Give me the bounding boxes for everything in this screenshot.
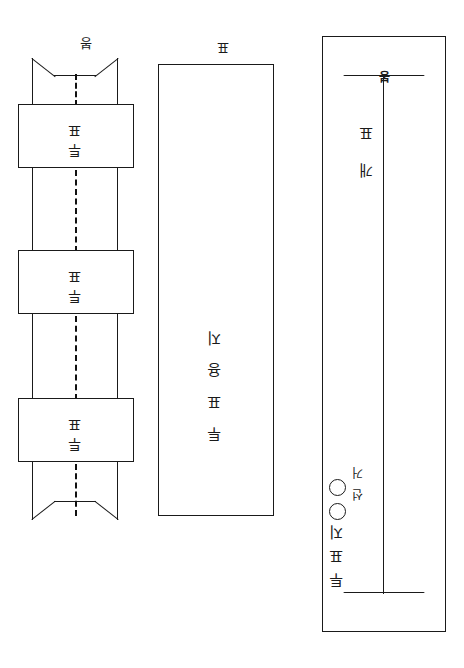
strip-dash-segment — [75, 74, 77, 106]
envelope-seal-mark: 봉 — [377, 69, 391, 83]
strip-band: 투표 — [18, 104, 134, 168]
ballot-diagram: 투표용지 표 — [158, 64, 274, 516]
scanned-page: 봉 투표지 선거 개표 투표용지 표 — [0, 0, 464, 668]
envelope-bottom-label: 개표 — [360, 104, 375, 178]
strip-dash-segment — [75, 170, 77, 252]
strip-band: 투표 — [18, 250, 134, 314]
envelope-fold-line — [383, 74, 384, 594]
envelope-diagram: 봉 투표지 선거 개표 — [322, 36, 446, 632]
ballot-outline — [158, 64, 274, 516]
circle-icon — [329, 479, 346, 496]
sealed-strip-diagram: 투표 투표 투표 봉 — [16, 56, 134, 520]
strip-caption: 봉 — [80, 37, 92, 50]
circle-icon — [329, 503, 346, 520]
strip-band: 투표 — [18, 398, 134, 462]
envelope-main-label: 투표지 — [330, 516, 345, 588]
strip-dash-segment — [75, 316, 77, 400]
envelope-circle-group — [329, 479, 346, 520]
ballot-label: 투표용지 — [209, 314, 224, 442]
strip-band-label: 투표 — [69, 264, 83, 304]
strip-dash-segment — [75, 464, 77, 516]
ballot-caption: 표 — [217, 41, 229, 54]
envelope-side-label: 선거 — [352, 457, 364, 501]
strip-band-label: 투표 — [69, 412, 83, 452]
strip-band-label: 투표 — [69, 118, 83, 158]
